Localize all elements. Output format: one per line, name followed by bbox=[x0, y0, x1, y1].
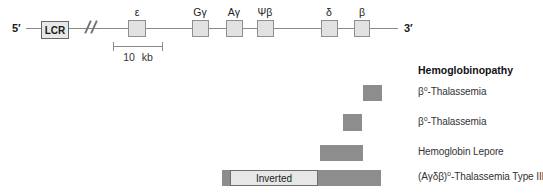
scale-bar-tick bbox=[162, 42, 163, 51]
three-prime-label: 3′ bbox=[404, 22, 413, 34]
lcr-box: LCR bbox=[41, 21, 69, 39]
legend-row-beta0-thalassemia-2: β⁰-Thalassemia bbox=[418, 116, 486, 127]
gene-epsilon: ε bbox=[117, 6, 157, 37]
gene-label-epsilon: ε bbox=[117, 6, 157, 19]
deletion-bar-beta0-thalassemia-1 bbox=[363, 85, 382, 101]
gene-beta: β bbox=[342, 6, 382, 37]
gene-box-a-gamma bbox=[226, 20, 243, 37]
five-prime-label: 5′ bbox=[12, 22, 21, 34]
lcr-label: LCR bbox=[45, 25, 66, 36]
gene-label-beta: β bbox=[342, 6, 382, 19]
scale-bar-label: 10 kb bbox=[113, 51, 163, 63]
beta-globin-locus-figure: 5′ LCR ε Gγ Aγ Ψβ δ β 3′ 10 kb bbox=[0, 0, 543, 195]
inverted-segment-box: Inverted bbox=[230, 170, 318, 186]
deletion-bar-agdb-thalassemia: Inverted bbox=[222, 170, 381, 186]
scale-bar-line bbox=[113, 46, 163, 47]
inverted-segment-label: Inverted bbox=[256, 173, 292, 184]
legend-row-hemoglobin-lepore: Hemoglobin Lepore bbox=[418, 146, 504, 157]
line-break-slash-icon bbox=[90, 20, 98, 34]
gene-label-psi-beta: Ψβ bbox=[245, 6, 285, 19]
deletion-bar-beta0-thalassemia-2 bbox=[343, 114, 362, 131]
deletion-bar-hemoglobin-lepore bbox=[320, 145, 363, 161]
gene-box-epsilon bbox=[128, 20, 146, 37]
legend-row-agdb-thalassemia: (Aγδβ)⁰-Thalassemia Type III bbox=[418, 171, 543, 182]
gene-box-delta bbox=[321, 20, 338, 37]
gene-box-beta bbox=[354, 20, 370, 37]
gene-box-g-gamma bbox=[192, 20, 209, 37]
gene-box-psi-beta bbox=[257, 20, 274, 37]
legend-header: Hemoglobinopathy bbox=[418, 64, 513, 76]
scale-bar: 10 kb bbox=[113, 42, 163, 64]
gene-psi-beta: Ψβ bbox=[245, 6, 285, 37]
legend-row-beta0-thalassemia-1: β⁰-Thalassemia bbox=[418, 86, 486, 97]
